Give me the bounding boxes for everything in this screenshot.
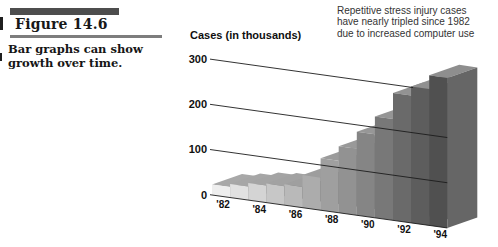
x-tick-label: '86 [289,209,303,220]
y-tick-label: 0 [201,189,207,201]
bar-front-face [284,184,302,207]
bar-chart: 0100200300'82'84'86'88'90'92'94 [0,0,498,247]
x-tick-label: '90 [361,219,375,230]
x-tick-label: '82 [216,199,230,210]
x-tick-label: '92 [397,224,411,235]
bar-front-face [393,93,411,223]
bar-front-face [357,132,375,218]
bar-front-face [411,86,429,225]
bar-front-face [248,183,266,203]
x-tick-label: '84 [252,204,266,215]
x-tick-label: '94 [433,229,447,240]
bar-front-face [429,75,447,228]
bar-front-face [375,117,393,221]
x-tick-label: '88 [325,214,339,225]
y-tick-label: 300 [189,53,207,65]
gridline-300 [210,59,413,87]
bar-front-face [303,175,321,210]
bar-front-face [339,146,357,215]
figure-panel: Figure 14.6 Bar graphs can show growth o… [0,0,498,247]
bar-front-face [266,184,284,206]
y-tick-label: 200 [189,98,207,110]
bar-side-face [447,67,477,228]
y-tick-label: 100 [189,143,207,155]
